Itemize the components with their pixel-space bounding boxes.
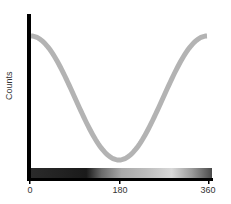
y-axis-label: Counts (4, 71, 14, 100)
x-tick-label-360: 360 (200, 185, 215, 195)
intensity-colorbar (31, 168, 212, 178)
chart-canvas (0, 0, 231, 204)
x-tick-180 (119, 178, 121, 184)
x-tick-label-0: 0 (27, 185, 32, 195)
y-axis (27, 14, 31, 181)
x-tick-360 (208, 178, 210, 184)
x-tick-label-180: 180 (112, 185, 127, 195)
x-tick-0 (29, 178, 31, 184)
counts-curve (31, 36, 207, 160)
